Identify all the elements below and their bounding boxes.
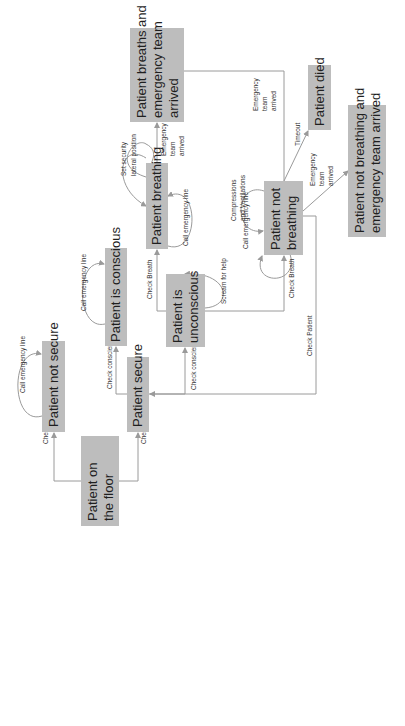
label-check-patient: Check Patient <box>306 315 313 356</box>
node-patient-on-floor: Patient on the floor <box>81 436 119 526</box>
svg-text:Patient breathing: Patient breathing <box>149 147 164 245</box>
edge-labels: Check Security Check Security Call emerg… <box>19 77 334 444</box>
svg-text:Patient not: Patient not <box>268 187 283 250</box>
label-team-arrived-2c: arrived <box>270 91 277 111</box>
edge-unconscious-not-breathing <box>205 256 284 311</box>
node-patient-not-breathing: Patient not breathing <box>264 181 303 255</box>
svg-text:the floor: the floor <box>101 473 116 521</box>
label-call-emergency-breathing: Call emergency line <box>182 189 190 246</box>
label-team-arrived-2a: Emergency <box>252 77 260 111</box>
svg-text:Patient not secure: Patient not secure <box>46 322 61 427</box>
edge-secure-conscious <box>116 347 127 394</box>
label-team-arrived-2b: team <box>261 97 268 111</box>
svg-text:arrived: arrived <box>166 78 181 118</box>
node-patient-secure: Patient secure <box>127 344 149 432</box>
label-team-arrived-3b: team <box>318 172 325 186</box>
edge-not-breathing-self-call <box>260 254 291 278</box>
label-compressions-1: Compressions <box>230 179 238 221</box>
label-team-arrived-3a: Emergency <box>309 152 317 186</box>
label-call-emergency-conscious: Call emergency line <box>80 254 88 311</box>
label-compressions-2: and Ventilations <box>239 174 246 221</box>
label-team-arrived-1c: arrived <box>178 136 185 156</box>
svg-text:breathing: breathing <box>284 196 299 250</box>
state-diagram: Check Security Check Security Call emerg… <box>0 0 405 726</box>
label-check-breath-2: Check Breath <box>288 258 295 298</box>
label-check-breath-1: Check Breath <box>146 259 153 299</box>
svg-text:Patient breaths and: Patient breaths and <box>134 5 149 118</box>
edge-floor-not-secure <box>54 433 81 481</box>
svg-text:Patient not breathing and: Patient not breathing and <box>352 88 367 233</box>
svg-text:Patient on: Patient on <box>85 462 100 521</box>
label-set-security-1: Set security <box>120 141 128 176</box>
svg-text:emergency team arrived: emergency team arrived <box>368 93 383 233</box>
svg-text:Patient is conscious: Patient is conscious <box>108 227 123 342</box>
node-patient-died: Patient died <box>308 57 331 130</box>
svg-text:Patient is: Patient is <box>170 289 185 343</box>
edge-unconscious-breathing <box>157 250 166 311</box>
node-patient-not-secure: Patient not secure <box>42 322 65 432</box>
node-patient-conscious: Patient is conscious <box>105 227 127 346</box>
label-set-security-2: lateral position <box>130 134 138 176</box>
node-patient-unconscious: Patient is unconscious <box>166 270 205 347</box>
label-call-emergency-not-secure: Call emergency line <box>19 336 27 393</box>
svg-text:Patient died: Patient died <box>312 57 327 126</box>
svg-text:emergency team: emergency team <box>150 21 165 118</box>
node-not-breathing-team-arrived: Patient not breathing and emergency team… <box>348 88 386 237</box>
edge-not-breathing-breaths-team <box>184 71 284 181</box>
svg-text:unconscious: unconscious <box>186 270 201 343</box>
node-breaths-team-arrived: Patient breaths and emergency team arriv… <box>130 5 184 122</box>
label-timeout: Timeout <box>294 123 301 146</box>
svg-text:Patient secure: Patient secure <box>130 344 145 427</box>
diagram-canvas: Check Security Check Security Call emerg… <box>0 0 405 726</box>
node-patient-breathing: Patient breathing <box>146 147 168 249</box>
label-team-arrived-3c: arrived <box>327 166 334 186</box>
label-scream-for-help: Scream for help <box>220 258 228 304</box>
label-team-arrived-1b: team <box>169 142 176 156</box>
edge-floor-secure <box>119 433 138 481</box>
